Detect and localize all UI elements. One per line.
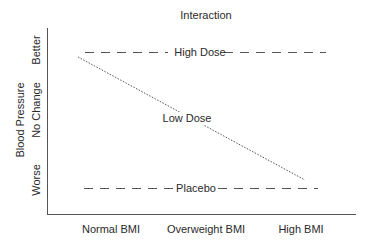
y-axis-label: Blood Pressure [14, 82, 26, 157]
chart-title: Interaction [180, 9, 231, 21]
y-tick-no-change: No Change [30, 82, 42, 138]
label-high-dose: High Dose [174, 46, 225, 58]
y-tick-better: Better [30, 35, 42, 65]
y-tick-worse: Worse [30, 164, 42, 196]
x-tick-overweight-bmi: Overweight BMI [167, 223, 245, 235]
series-low-dose: Low Dose [78, 57, 305, 180]
series-high-dose: High Dose [85, 46, 326, 58]
x-tick-normal-bmi: Normal BMI [82, 223, 140, 235]
label-placebo: Placebo [176, 182, 216, 194]
series-placebo: Placebo [84, 182, 318, 194]
x-tick-high-bmi: High BMI [278, 223, 323, 235]
label-low-dose: Low Dose [163, 112, 212, 124]
chart: Interaction Blood Pressure Better No Cha… [0, 0, 367, 247]
